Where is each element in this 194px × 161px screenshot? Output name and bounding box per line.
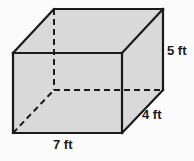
dimension-label-depth: 4 ft: [142, 108, 162, 121]
prism-diagram: 5 ft 4 ft 7 ft: [0, 0, 194, 161]
prism-svg: [0, 0, 194, 161]
prism-front-face: [13, 53, 122, 133]
dimension-label-height: 5 ft: [167, 44, 187, 57]
dimension-label-width: 7 ft: [53, 138, 73, 151]
